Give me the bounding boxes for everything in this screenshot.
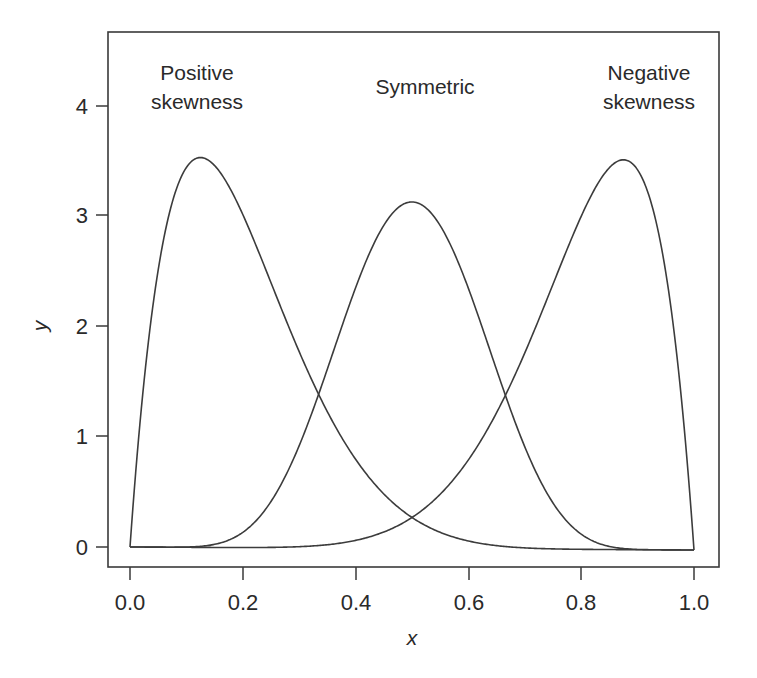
curve-negative-skewness [130,160,694,550]
y-axis-title: y [28,319,51,333]
y-tick-label-0: 0 [76,535,88,560]
skewness-chart: 0 1 2 3 4 y 0.0 0.2 0.4 0.6 0.8 1.0 x Po… [0,0,757,678]
curve-positive-skewness [130,158,694,550]
x-tick-label-5: 1.0 [679,590,710,615]
annotation-negative-line2: skewness [603,90,695,113]
annotation-negative-line1: Negative [608,61,691,84]
x-tick-label-0: 0.0 [115,590,146,615]
x-tick-label-3: 0.6 [454,590,485,615]
y-tick-label-3: 3 [76,203,88,228]
x-axis-title: x [406,626,419,649]
curve-symmetric [130,202,694,550]
annotation-positive-line2: skewness [151,90,243,113]
annotation-symmetric: Symmetric [375,75,474,98]
annotations: Positive skewness Symmetric Negative ske… [151,61,695,113]
y-axis: 0 1 2 3 4 y [28,94,108,560]
x-axis: 0.0 0.2 0.4 0.6 0.8 1.0 x [115,567,710,649]
curves [130,158,694,550]
y-tick-label-4: 4 [76,94,88,119]
annotation-positive-line1: Positive [160,61,234,84]
y-tick-label-2: 2 [76,314,88,339]
x-tick-label-4: 0.8 [566,590,597,615]
x-tick-label-2: 0.4 [341,590,372,615]
y-tick-label-1: 1 [76,424,88,449]
x-tick-label-1: 0.2 [228,590,259,615]
